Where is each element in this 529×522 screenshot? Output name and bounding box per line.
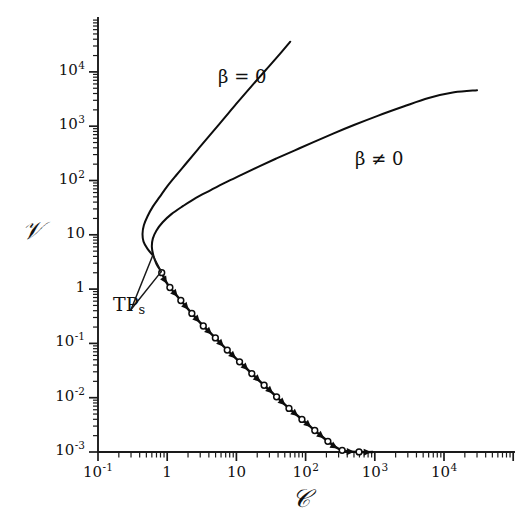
data-marker-open-circle xyxy=(312,428,318,434)
data-marker-open-circle xyxy=(200,323,206,329)
direction-arrow xyxy=(364,448,372,455)
data-marker-open-circle xyxy=(286,405,292,411)
y-tick-label: 10-1 xyxy=(55,334,85,349)
data-marker-open-circle xyxy=(212,335,218,341)
y-tick-label: 103 xyxy=(59,117,85,132)
axes-group xyxy=(98,18,514,452)
x-tick-label: 102 xyxy=(293,465,319,480)
curve-beta-0 xyxy=(143,42,291,256)
data-marker-open-circle xyxy=(274,394,280,400)
annotation-leader-connector xyxy=(153,255,161,271)
x-tick-label: 10-1 xyxy=(83,465,113,480)
x-tick-label: 103 xyxy=(362,465,388,480)
data-marker-open-circle xyxy=(356,449,362,455)
x-axis-title: 𝒞 xyxy=(292,486,310,511)
data-marker-open-circle xyxy=(249,371,255,377)
data-marker-open-circle xyxy=(237,359,243,365)
curve-label-beta-nonzero: β ≠ 0 xyxy=(355,150,403,168)
x-tick-label: 104 xyxy=(431,465,457,480)
y-tick-label: 10-2 xyxy=(55,389,85,404)
data-marker-open-circle xyxy=(189,311,195,317)
y-axis-ticks xyxy=(89,20,98,452)
y-tick-label: 1 xyxy=(75,280,85,295)
y-tick-label: 104 xyxy=(59,63,85,78)
x-tick-label: 1 xyxy=(162,465,172,480)
data-marker-open-circle xyxy=(325,438,331,444)
data-marker-open-circle xyxy=(178,298,184,304)
data-marker-open-circle xyxy=(261,382,267,388)
data-marker-open-circle xyxy=(299,416,305,422)
tp-text: TP xyxy=(113,293,138,315)
y-axis-title: 𝒱 xyxy=(22,218,43,243)
y-tick-label: 10-3 xyxy=(55,443,85,458)
curve-beta-0 xyxy=(152,90,477,271)
y-tick-label: 102 xyxy=(59,172,85,187)
turning-points-label: TPs xyxy=(113,295,145,314)
x-tick-label: 10 xyxy=(227,465,246,480)
x-axis-ticks xyxy=(98,452,513,461)
chart-figure: 10410310210110-110-210-3 10-111010210310… xyxy=(0,0,529,522)
data-marker-open-circle xyxy=(167,285,173,291)
tp-subscript: s xyxy=(138,302,145,317)
direction-arrow xyxy=(347,448,355,455)
curve-label-beta-zero: β = 0 xyxy=(218,68,266,86)
data-curves xyxy=(143,42,477,456)
y-tick-label: 10 xyxy=(66,226,85,241)
data-marker-open-circle xyxy=(224,347,230,353)
data-marker-open-circle xyxy=(339,447,345,453)
